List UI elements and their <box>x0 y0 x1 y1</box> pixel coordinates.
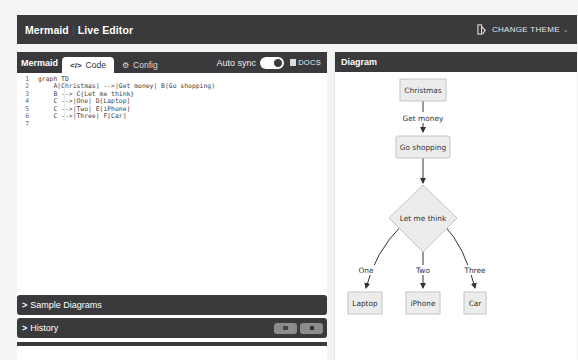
line-text: C -->|Three| F[Car] <box>38 112 127 120</box>
edge-label-get-money: Get money <box>403 114 444 123</box>
bottom-panel-bar <box>17 342 327 346</box>
gear-icon: ⚙ <box>122 61 129 70</box>
diagram-panel: Diagram Get money One Two Three Christma… <box>334 52 577 360</box>
editor-panel: Mermaid </> Code ⚙ Config Auto sync DOCS… <box>17 52 327 360</box>
brand-separator: | <box>72 24 75 36</box>
node-car[interactable]: Car <box>464 292 486 314</box>
code-line: 7 <box>17 120 327 128</box>
node-christmas[interactable]: Christmas <box>400 79 446 101</box>
history-accordion[interactable]: > History <box>17 318 327 338</box>
editor-header: Mermaid </> Code ⚙ Config Auto sync DOCS <box>17 52 327 73</box>
edge-label-one: One <box>358 266 374 275</box>
edge-label-three: Three <box>463 266 486 275</box>
line-number: 7 <box>17 120 38 128</box>
node-label: Car <box>469 299 483 308</box>
history-restore-button[interactable] <box>274 323 297 334</box>
change-theme-label: CHANGE THEME <box>492 25 560 34</box>
edge-c-f <box>444 225 475 288</box>
code-icon: </> <box>70 61 82 70</box>
docs-link[interactable]: DOCS <box>290 58 321 67</box>
app-brand[interactable]: Mermaid|Live Editor <box>25 24 133 36</box>
node-label: Let me think <box>400 214 447 223</box>
indent-guide <box>64 81 65 121</box>
tab-config[interactable]: ⚙ Config <box>114 57 166 73</box>
node-let-me-think[interactable]: Let me think <box>389 185 457 252</box>
chevron-right-icon: > <box>22 323 27 333</box>
node-go-shopping[interactable]: Go shopping <box>396 136 450 158</box>
app-title: Live Editor <box>78 24 133 36</box>
tab-code-label: Code <box>86 60 106 70</box>
brand-name: Mermaid <box>25 24 69 36</box>
auto-sync-label: Auto sync <box>217 58 257 68</box>
edge-c-d <box>366 225 402 288</box>
palette-icon <box>477 24 488 35</box>
history-actions <box>271 323 323 334</box>
node-iphone[interactable]: iPhone <box>406 292 440 314</box>
history-delete-button[interactable] <box>300 323 323 334</box>
navbar: Mermaid|Live Editor CHANGE THEME ⌄ <box>17 15 577 44</box>
chevron-down-icon: ⌄ <box>563 26 569 34</box>
edge-label-two: Two <box>415 266 430 275</box>
trash-icon <box>310 326 314 330</box>
book-icon <box>290 59 296 66</box>
docs-label: DOCS <box>298 58 321 67</box>
auto-sync-control: Auto sync DOCS <box>217 52 321 73</box>
sample-diagrams-label: Sample Diagrams <box>30 300 102 310</box>
chevron-right-icon: > <box>22 300 27 310</box>
save-icon <box>283 326 288 330</box>
toggle-knob <box>273 58 283 68</box>
tab-code[interactable]: </> Code <box>62 57 114 73</box>
node-label: Go shopping <box>400 143 447 152</box>
history-label: History <box>30 323 58 333</box>
editor-title: Mermaid <box>21 58 58 68</box>
change-theme-button[interactable]: CHANGE THEME ⌄ <box>477 24 569 35</box>
node-label: Laptop <box>352 299 378 308</box>
node-laptop[interactable]: Laptop <box>348 292 382 314</box>
node-label: iPhone <box>411 299 436 308</box>
node-label: Christmas <box>404 86 441 95</box>
tab-config-label: Config <box>133 60 158 70</box>
auto-sync-toggle[interactable] <box>260 57 284 69</box>
sample-diagrams-accordion[interactable]: > Sample Diagrams <box>17 295 327 315</box>
flowchart-diagram[interactable]: Get money One Two Three Christmas Go sho… <box>335 52 578 360</box>
